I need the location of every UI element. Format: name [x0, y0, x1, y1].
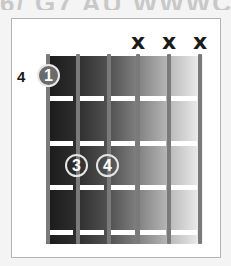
finger-marker-4: 4	[96, 154, 119, 177]
string-3	[107, 54, 111, 244]
string-6	[198, 54, 202, 244]
muted-x-icon: x	[159, 31, 179, 53]
fret-line-3	[47, 185, 201, 190]
header-text-fragment: 6/ G7 AU WWWC	[0, 0, 231, 10]
fret-line-2	[47, 141, 201, 146]
muted-x-icon: x	[190, 31, 210, 53]
finger-marker-3: 3	[65, 154, 88, 177]
string-2	[76, 54, 80, 244]
finger-marker-1: 1	[37, 64, 60, 87]
string-5	[167, 54, 171, 244]
base-fret-label: 4	[17, 68, 25, 85]
fretboard	[46, 56, 203, 244]
string-4	[136, 54, 140, 244]
muted-x-icon: x	[128, 31, 148, 53]
fret-line-1	[47, 96, 201, 101]
fret-line-4	[47, 230, 201, 235]
